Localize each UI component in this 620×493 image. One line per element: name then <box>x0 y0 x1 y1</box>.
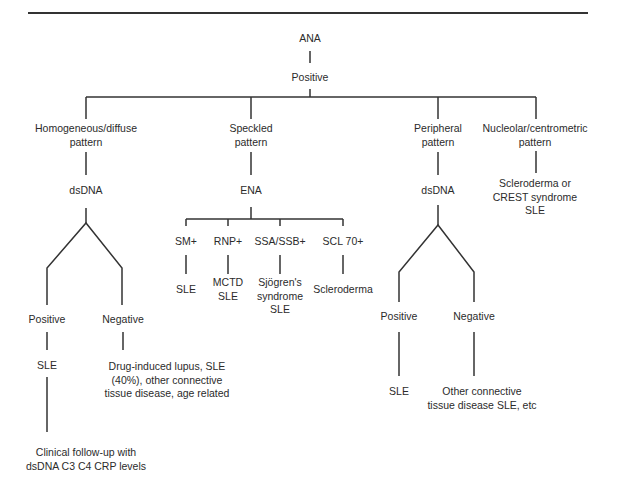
peripheral-negative: Negative <box>453 310 494 324</box>
pattern-peripheral: Peripheral pattern <box>414 122 462 149</box>
homogeneous-follow-up: Clinical follow-up with dsDNA C3 C4 CRP … <box>26 446 146 473</box>
nucleolar-outcome: Scleroderma or CREST syndrome SLE <box>493 177 577 218</box>
peripheral-negative-outcome: Other connective tissue disease SLE, etc <box>427 385 536 412</box>
homogeneous-negative-outcome: Drug-induced lupus, SLE (40%), other con… <box>105 360 230 401</box>
antibody-sm: SM+ <box>175 235 197 249</box>
outcome-ssa-ssb: Sjögren's syndrome SLE <box>257 276 303 317</box>
peripheral-test: dsDNA <box>421 184 454 198</box>
peripheral-positive-outcome: SLE <box>389 385 409 399</box>
outcome-rnp: MCTD SLE <box>213 276 243 303</box>
antibody-rnp: RNP+ <box>214 235 242 249</box>
outcome-scl70: Scleroderma <box>313 283 373 297</box>
homogeneous-positive-outcome: SLE <box>37 359 57 373</box>
root-ana: ANA <box>299 32 321 46</box>
pattern-speckled: Speckled pattern <box>229 122 272 149</box>
root-positive: Positive <box>292 71 329 85</box>
homogeneous-positive: Positive <box>29 313 66 327</box>
antibody-scl70: SCL 70+ <box>323 235 364 249</box>
speckled-test: ENA <box>240 184 262 198</box>
homogeneous-test: dsDNA <box>69 184 102 198</box>
antibody-ssa-ssb: SSA/SSB+ <box>254 235 305 249</box>
outcome-sm: SLE <box>176 283 196 297</box>
pattern-homogeneous: Homogeneous/diffuse pattern <box>35 122 137 149</box>
peripheral-positive: Positive <box>381 310 418 324</box>
pattern-nucleolar: Nucleolar/centrometric pattern <box>482 122 587 149</box>
homogeneous-negative: Negative <box>102 313 143 327</box>
